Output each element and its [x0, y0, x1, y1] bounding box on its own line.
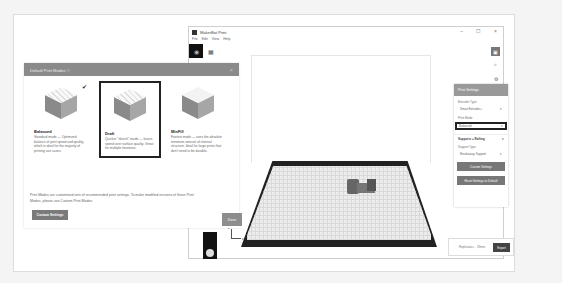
done-button[interactable]: Done: [222, 213, 242, 226]
extruder-type-select[interactable]: Smart Extruder+▾: [458, 106, 504, 112]
printer-file-label[interactable]: Replicator+ · 29min: [459, 245, 485, 249]
dialog-header: Default Print Modes ⓘ ×: [24, 63, 239, 76]
dialog-footer-text: Print Modes are customized sets of recom…: [30, 192, 200, 204]
gear-icon[interactable]: ⚙: [491, 74, 500, 83]
minfill-cube-icon: [182, 87, 214, 121]
supports-section-toggle[interactable]: Supports + Rafting▾: [454, 134, 508, 141]
extruder-type-label: Extruder Type: [454, 100, 508, 104]
app-logo-icon: [192, 30, 197, 35]
custom-settings-button[interactable]: Custom Settings: [32, 210, 68, 220]
app-title: MakerBot Print: [200, 30, 226, 35]
close-icon[interactable]: ×: [230, 67, 233, 73]
mode-card-balanced[interactable]: Balanced Standard mode — Optimized balan…: [30, 81, 92, 158]
print-settings-panel: Print Settings Extruder Type Smart Extru…: [454, 84, 508, 207]
add-file-icon[interactable]: ▣: [491, 47, 500, 56]
menu-view[interactable]: View: [212, 37, 220, 41]
close-window-button[interactable]: ×: [494, 28, 497, 34]
draft-cube-icon: [114, 89, 146, 123]
dialog-title: Default Print Modes ⓘ: [30, 67, 70, 73]
export-bar: 🗀 Replicator+ · 29min Export: [448, 238, 514, 256]
print-modes-dialog: Default Print Modes ⓘ × Balanced Standar…: [24, 63, 239, 228]
mode-card-minfill[interactable]: MinFill Fastest mode — uses the absolute…: [167, 81, 229, 158]
bottom-tool-panel: [203, 232, 217, 259]
reset-settings-button[interactable]: Reset Settings to Default: [457, 176, 505, 185]
maximize-button[interactable]: ☐: [476, 28, 480, 34]
export-button[interactable]: Export: [493, 243, 510, 252]
print-settings-title: Print Settings: [454, 84, 508, 96]
axis-indicator: z x: [228, 226, 244, 242]
title-bar: MakerBot Print: [189, 27, 503, 37]
support-type-label: Support Type: [454, 145, 508, 149]
build-volume-wireframe: [251, 55, 431, 163]
menu-edit[interactable]: Edit: [202, 37, 208, 41]
chevron-down-icon: ▾: [502, 137, 504, 141]
chevron-down-icon: ▾: [500, 107, 502, 111]
chevron-down-icon: ▾: [500, 152, 502, 156]
print-mode-select[interactable]: Balanced▾: [455, 122, 507, 130]
folder-icon: 🗀: [453, 245, 456, 250]
balanced-cube-icon: [45, 87, 77, 121]
chevron-down-icon: ▾: [501, 124, 503, 128]
menu-help[interactable]: Help: [223, 37, 230, 41]
menu-bar: File Edit View Help: [192, 37, 230, 41]
menu-file[interactable]: File: [192, 37, 198, 41]
3d-model[interactable]: [347, 176, 377, 196]
custom-settings-button[interactable]: Custom Settings: [457, 162, 505, 171]
print-mode-label: Print Mode: [454, 116, 508, 120]
build-plate: [244, 163, 434, 243]
mode-card-draft[interactable]: Draft Quicker "sketch" mode — favors spe…: [99, 81, 161, 158]
support-type-select[interactable]: Breakaway Support▾: [458, 151, 504, 157]
checkmark-icon: ✔: [82, 83, 87, 90]
minimize-button[interactable]: –: [460, 28, 463, 34]
search-icon[interactable]: ⌕: [491, 60, 500, 69]
view-cube-icon[interactable]: [206, 249, 214, 257]
